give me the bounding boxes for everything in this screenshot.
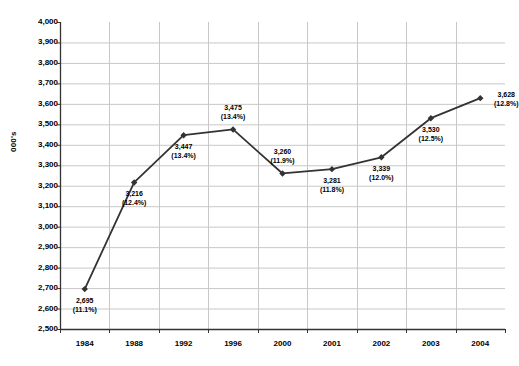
data-point-marker — [477, 95, 483, 101]
data-point-value: 3,339 — [373, 165, 391, 172]
data-point-percent: (11.1%) — [73, 305, 97, 314]
data-point-value: 3,281 — [323, 177, 341, 184]
grid-lines-horizontal — [60, 43, 505, 330]
data-point-marker — [329, 166, 335, 172]
data-point-percent: (11.9%) — [270, 156, 294, 165]
data-point-label: 3,475(13.4%) — [221, 103, 246, 121]
data-point-label: 3,281(11.8%) — [320, 176, 344, 194]
data-point-label: 3,530(12.5%) — [419, 125, 444, 143]
data-point-value: 3,447 — [175, 143, 193, 150]
data-point-label: 2,695(11.1%) — [73, 296, 97, 314]
data-point-value: 3,530 — [422, 126, 440, 133]
data-point-value: 3,260 — [274, 148, 292, 155]
data-point-label: 3,447(13.4%) — [171, 142, 196, 160]
data-point-label: 3,339(12.0%) — [369, 164, 394, 182]
data-point-percent: (13.4%) — [221, 112, 246, 121]
data-point-label: 3,628(12.8%) — [494, 90, 519, 108]
data-point-label: 3,260(11.9%) — [270, 147, 294, 165]
data-point-percent: (12.0%) — [369, 173, 394, 182]
data-point-percent: (12.5%) — [419, 134, 444, 143]
data-point-value: 3,216 — [125, 190, 143, 197]
data-point-value: 2,695 — [76, 297, 94, 304]
data-point-value: 3,628 — [497, 91, 515, 98]
data-point-value: 3,475 — [224, 104, 242, 111]
data-point-percent: (11.8%) — [320, 185, 344, 194]
data-point-percent: (12.8%) — [494, 99, 519, 108]
data-point-label: 3,216(12.4%) — [122, 189, 147, 207]
axis-ticks — [57, 23, 506, 334]
data-point-percent: (12.4%) — [122, 198, 147, 207]
data-point-percent: (13.4%) — [171, 151, 196, 160]
data-point-marker — [82, 286, 88, 292]
